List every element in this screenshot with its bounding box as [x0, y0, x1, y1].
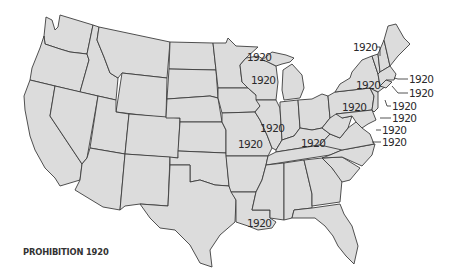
state-kansas — [178, 122, 226, 153]
state-south-dakota — [167, 69, 218, 99]
label-new-york: 1920 — [356, 79, 380, 91]
us-map: 1920 1920 1920 1920 1920 1920 1920 1920 … — [0, 0, 451, 280]
state-florida — [292, 204, 358, 264]
label-kentucky: 1920 — [301, 137, 325, 149]
label-illinois: 1920 — [260, 122, 284, 134]
state-colorado — [125, 114, 180, 158]
label-new-jersey: 1920 — [392, 100, 416, 112]
label-missouri: 1920 — [238, 138, 262, 150]
state-new-mexico — [120, 154, 170, 210]
label-wisconsin: 1920 — [251, 74, 275, 86]
label-vermont: 1920 — [353, 41, 377, 53]
state-north-dakota — [169, 42, 216, 70]
label-massachusetts: 1920 — [409, 73, 433, 85]
label-rhode-island: 1920 — [409, 87, 433, 99]
label-maryland: 1920 — [382, 124, 406, 136]
label-virginia: 1920 — [382, 136, 406, 148]
map-caption: PROHIBITION 1920 — [23, 246, 109, 257]
state-wyoming — [116, 73, 167, 118]
label-delaware: 1920 — [392, 112, 416, 124]
label-pennsylvania: 1920 — [342, 101, 366, 113]
state-nebraska — [166, 96, 222, 122]
label-minnesota: 1920 — [247, 51, 271, 63]
label-louisiana: 1920 — [247, 217, 271, 229]
